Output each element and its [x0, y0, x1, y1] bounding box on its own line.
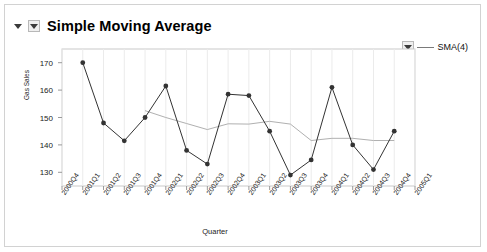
y-axis-tick-label: 140: [40, 140, 53, 149]
y-axis-tick-label: 150: [40, 113, 53, 122]
y-axis-tick-label: 160: [40, 86, 53, 95]
plot-area: 130140150160170 2000Q42001Q12001Q22001Q3…: [5, 5, 482, 248]
x-axis-ticks: 2000Q42001Q12001Q22001Q32001Q42002Q12002…: [5, 186, 482, 246]
y-axis-tick-label: 130: [40, 168, 53, 177]
chart-panel: Simple Moving Average SMA(4) 13014015016…: [4, 4, 481, 247]
y-axis-tick-label: 170: [40, 58, 53, 67]
x-axis-label: Quarter: [5, 227, 425, 236]
y-axis-label: Gas Sales: [23, 70, 30, 100]
